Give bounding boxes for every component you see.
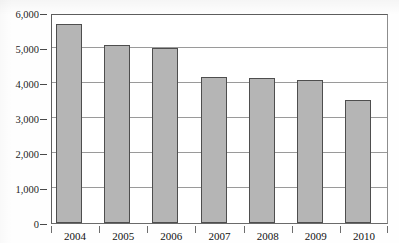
- y-tick-label-0: 0: [34, 219, 39, 230]
- y-tick-mark-0: [40, 224, 47, 225]
- bar-2004: [56, 24, 82, 224]
- y-tick-mark-4000: [40, 84, 47, 85]
- bar-2006: [152, 48, 178, 223]
- x-tick-mark-end: [387, 226, 388, 233]
- y-axis: 01,0002,0003,0004,0005,0006,000: [0, 0, 51, 243]
- y-tick-mark-3000: [40, 119, 47, 120]
- x-tick-label-2004: 2004: [64, 230, 86, 242]
- y-tick-mark-5000: [40, 49, 47, 50]
- y-tick-label-3000: 3,000: [15, 114, 39, 125]
- bar-2007: [201, 77, 227, 223]
- x-tick-label-2009: 2009: [305, 230, 327, 242]
- bar-2009: [297, 80, 323, 224]
- x-tick-label-2005: 2005: [112, 230, 134, 242]
- x-tick-mark-0: [51, 226, 52, 233]
- x-tick-mark-1: [99, 226, 100, 233]
- x-tick-label-2007: 2007: [209, 230, 231, 242]
- y-tick-label-2000: 2,000: [15, 149, 39, 160]
- x-tick-mark-3: [195, 226, 196, 233]
- x-tick-mark-6: [340, 226, 341, 233]
- bar-2008: [249, 78, 275, 223]
- gridline-5000: [52, 47, 387, 48]
- chart-title: [92, 0, 322, 3]
- y-tick-label-6000: 6,000: [15, 9, 39, 20]
- x-tick-mark-5: [292, 226, 293, 233]
- bar-chart-figure: 01,0002,0003,0004,0005,0006,000 20042005…: [0, 0, 399, 243]
- x-tick-label-2006: 2006: [160, 230, 182, 242]
- x-tick-mark-2: [147, 226, 148, 233]
- plot-area: [51, 14, 388, 224]
- y-tick-mark-6000: [40, 14, 47, 15]
- y-tick-mark-1000: [40, 189, 47, 190]
- x-axis: 2004200520062007200820092010: [51, 226, 388, 243]
- x-tick-label-2008: 2008: [257, 230, 279, 242]
- y-tick-mark-2000: [40, 154, 47, 155]
- y-tick-label-1000: 1,000: [15, 184, 39, 195]
- bar-2010: [345, 100, 371, 223]
- y-tick-label-4000: 4,000: [15, 79, 39, 90]
- x-tick-mark-4: [244, 226, 245, 233]
- y-tick-label-5000: 5,000: [15, 44, 39, 55]
- bar-2005: [104, 45, 130, 223]
- x-tick-label-2010: 2010: [353, 230, 375, 242]
